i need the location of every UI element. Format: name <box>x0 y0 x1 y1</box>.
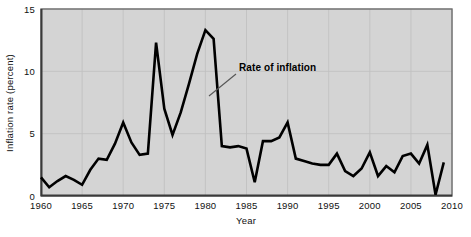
y-tick-label: 0 <box>30 191 35 202</box>
x-tick-label: 1990 <box>277 200 299 211</box>
y-axis-tick-labels: 051015 <box>24 4 35 202</box>
chart-canvas: 1960196519701975198019851990199520002005… <box>0 0 471 237</box>
x-axis-title: Year <box>236 215 256 226</box>
x-tick-label: 1960 <box>30 200 52 211</box>
x-tick-label: 1970 <box>112 200 134 211</box>
y-tick-label: 15 <box>24 4 35 15</box>
x-tick-label: 1975 <box>153 200 175 211</box>
x-tick-label: 1965 <box>71 200 93 211</box>
x-tick-label: 2000 <box>359 200 381 211</box>
inflation-rate-chart-figure: 1960196519701975198019851990199520002005… <box>0 0 471 237</box>
annotation-label: Rate of inflation <box>239 62 316 73</box>
x-tick-label: 1985 <box>236 200 258 211</box>
x-axis-tick-labels: 1960196519701975198019851990199520002005… <box>30 200 463 211</box>
x-tick-label: 1980 <box>194 200 216 211</box>
y-axis-title: Inflation rate (percent) <box>4 54 15 152</box>
x-tick-label: 2010 <box>441 200 463 211</box>
y-tick-label: 5 <box>30 128 35 139</box>
x-tick-label: 2005 <box>400 200 422 211</box>
x-tick-label: 1995 <box>318 200 340 211</box>
y-tick-label: 10 <box>24 66 35 77</box>
